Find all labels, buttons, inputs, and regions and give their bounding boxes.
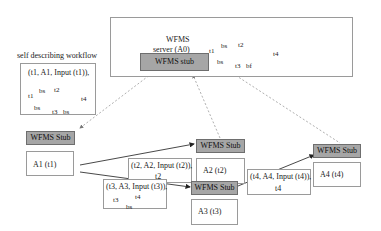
a3-label: A3 (t3) <box>198 208 221 216</box>
server-title-line1: WFMS <box>166 36 190 44</box>
sd-flow-e13: bs <box>34 105 40 112</box>
a4-node-box[interactable]: A4 (t4) <box>313 162 361 187</box>
server-flow-e13: bs <box>217 59 223 66</box>
message-to-a3: (t3, A3, Input (t3)), t3 t4 bs <box>103 179 167 209</box>
msg-a3-flow-from: t3 <box>113 197 118 204</box>
self-describing-tuple: (t1, A1, Input (t1)), <box>28 69 89 77</box>
msg-a3-line1: (t3, A3, Input (t3)), <box>106 183 167 191</box>
a2-label: A2 (t2) <box>203 167 226 175</box>
wfms-server-box: WFMS server (A0) WFMS stub t1 bs t2 bs t… <box>110 17 353 77</box>
a1-wfms-stub[interactable]: WFMS Stub <box>26 131 75 145</box>
self-describing-box: (t1, A1, Input (t1)), t1 bs t2 bs t3 bs … <box>20 63 96 115</box>
server-flow-t4: t4 <box>273 51 278 58</box>
server-flow-t1: t1 <box>209 48 214 55</box>
dashed-line-server-a4 <box>229 71 340 143</box>
a4-label: A4 (t4) <box>320 171 343 179</box>
a3-stub-label: WFMS Stub <box>194 183 234 192</box>
server-flow-t3: t3 <box>235 63 240 70</box>
sd-flow-t2: t2 <box>54 87 59 94</box>
server-flow-e34: bf <box>246 63 252 70</box>
msg-a3-flow-edge: bs <box>126 204 132 211</box>
server-flow-e12: bs <box>221 43 227 50</box>
msg-a4-line2: t4 <box>275 185 281 193</box>
a4-wfms-stub[interactable]: WFMS Stub <box>313 144 361 158</box>
sd-flow-e34: bs <box>63 109 69 116</box>
server-stub-label: WFMS stub <box>155 57 194 66</box>
a4-stub-label: WFMS Stub <box>317 146 357 155</box>
a1-label: A1 (t1) <box>33 161 56 169</box>
a1-node-box[interactable]: A1 (t1) <box>26 151 74 176</box>
message-to-a4: (t4, A4, Input (t4)), t4 <box>247 169 311 195</box>
a2-wfms-stub[interactable]: WFMS Stub <box>196 139 245 153</box>
a3-node-box[interactable]: A3 (t3) <box>191 199 238 225</box>
server-flow-t2: t2 <box>238 42 243 49</box>
a3-wfms-stub[interactable]: WFMS Stub <box>191 181 238 195</box>
sd-flow-t1: t1 <box>28 93 33 100</box>
server-wfms-stub[interactable]: WFMS stub <box>140 53 209 71</box>
sd-flow-e12: bs <box>39 88 45 95</box>
sd-flow-t4: t4 <box>81 96 86 103</box>
sd-flow-t3: t3 <box>52 109 57 116</box>
dashed-line-a2-server <box>193 75 220 138</box>
a2-stub-label: WFMS Stub <box>200 141 240 150</box>
self-describing-title: self describing workflow <box>17 52 97 60</box>
msg-a4-line1: (t4, A4, Input (t4)), <box>250 173 311 181</box>
a1-stub-label: WFMS Stub <box>30 133 70 142</box>
msg-a3-flow-to: t4 <box>135 194 140 201</box>
msg-a2-line1: (t2, A2, Input (t2)), <box>131 162 192 170</box>
